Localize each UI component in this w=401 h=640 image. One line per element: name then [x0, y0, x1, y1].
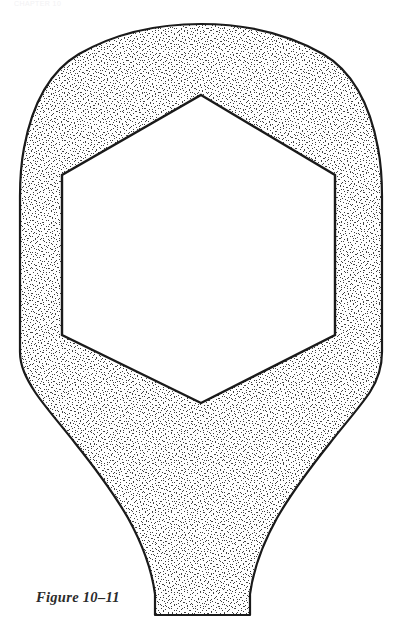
figure-page: CHAPTER 10 — [0, 0, 401, 640]
figure-caption: Figure 10–11 — [36, 589, 120, 606]
figure-illustration — [0, 0, 401, 640]
